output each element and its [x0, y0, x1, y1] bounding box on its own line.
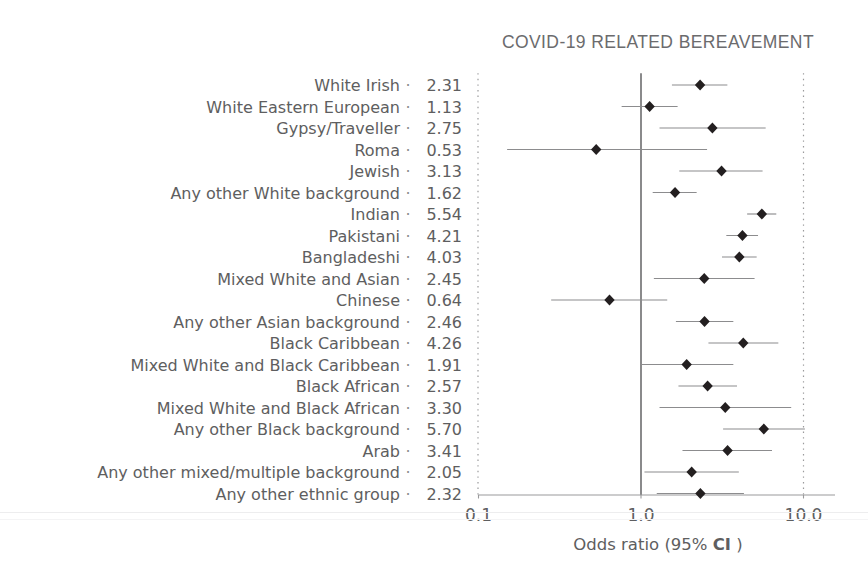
category-label: Arab	[363, 441, 400, 463]
forest-row: Gypsy/Traveller·2.75	[0, 118, 470, 140]
category-label: Jewish	[349, 161, 400, 183]
category-label: Gypsy/Traveller	[276, 118, 400, 140]
label-value-separator: ·	[400, 269, 416, 291]
x-axis-title-ci: CI	[713, 535, 731, 554]
category-label: Any other White background	[170, 183, 400, 205]
point-estimate-marker	[722, 445, 732, 456]
odds-ratio-value: 3.41	[416, 441, 462, 463]
point-estimate-marker	[591, 144, 601, 155]
category-label: Mixed White and Black African	[157, 398, 400, 420]
odds-ratio-value: 2.31	[416, 75, 462, 97]
point-estimate-marker	[759, 423, 769, 434]
category-label: Chinese	[336, 290, 400, 312]
odds-ratio-value: 1.62	[416, 183, 462, 205]
odds-ratio-value: 2.75	[416, 118, 462, 140]
odds-ratio-value: 2.05	[416, 462, 462, 484]
odds-ratio-value: 4.21	[416, 226, 462, 248]
point-estimate-marker	[681, 359, 691, 370]
category-label: Mixed White and Asian	[217, 269, 400, 291]
point-estimate-marker	[686, 466, 696, 477]
forest-row: Pakistani·4.21	[0, 226, 470, 248]
point-estimate-marker	[695, 79, 705, 90]
point-estimate-marker	[757, 208, 767, 219]
category-label: Bangladeshi	[302, 247, 400, 269]
odds-ratio-value: 5.70	[416, 419, 462, 441]
point-estimate-marker	[702, 380, 712, 391]
forest-plot-figure: COVID-19 RELATED BEREAVEMENT White Irish…	[0, 0, 868, 571]
forest-row: Any other Black background·5.70	[0, 419, 470, 441]
category-label-list: White Irish·2.31White Eastern European·1…	[0, 75, 470, 505]
odds-ratio-value: 1.13	[416, 97, 462, 119]
label-value-separator: ·	[400, 247, 416, 269]
label-value-separator: ·	[400, 204, 416, 226]
label-value-separator: ·	[400, 312, 416, 334]
category-label: Any other ethnic group	[215, 484, 400, 506]
x-axis-title-prefix: Odds ratio (95%	[573, 535, 712, 554]
forest-row: Indian·5.54	[0, 204, 470, 226]
x-axis-title: Odds ratio (95% CI )	[478, 535, 838, 554]
x-axis-tick-label: 10.0	[785, 505, 823, 525]
category-label: Any other Asian background	[173, 312, 400, 334]
forest-row: Black African·2.57	[0, 376, 470, 398]
point-estimate-marker	[720, 402, 730, 413]
label-value-separator: ·	[400, 161, 416, 183]
odds-ratio-value: 0.53	[416, 140, 462, 162]
category-label: Black African	[296, 376, 400, 398]
point-estimate-marker	[737, 230, 747, 241]
category-label: Mixed White and Black Caribbean	[130, 355, 400, 377]
label-value-separator: ·	[400, 484, 416, 506]
forest-row: Bangladeshi·4.03	[0, 247, 470, 269]
point-estimate-marker	[738, 337, 748, 348]
odds-ratio-value: 0.64	[416, 290, 462, 312]
point-estimate-marker	[695, 488, 705, 499]
point-estimate-marker	[644, 101, 654, 112]
category-label: Pakistani	[329, 226, 400, 248]
label-value-separator: ·	[400, 118, 416, 140]
forest-row: Mixed White and Asian·2.45	[0, 269, 470, 291]
label-value-separator: ·	[400, 355, 416, 377]
odds-ratio-value: 4.03	[416, 247, 462, 269]
point-estimate-marker	[699, 316, 709, 327]
label-value-separator: ·	[400, 333, 416, 355]
category-label: Any other mixed/multiple background	[97, 462, 400, 484]
label-value-separator: ·	[400, 462, 416, 484]
category-label: Indian	[351, 204, 400, 226]
x-axis-tick-label: 1.0	[627, 505, 654, 525]
page-rule-top	[0, 512, 868, 513]
point-estimate-marker	[734, 251, 744, 262]
forest-row: White Irish·2.31	[0, 75, 470, 97]
category-label: White Irish	[314, 75, 400, 97]
odds-ratio-value: 1.91	[416, 355, 462, 377]
label-value-separator: ·	[400, 97, 416, 119]
x-axis-title-suffix: )	[731, 535, 743, 554]
odds-ratio-value: 4.26	[416, 333, 462, 355]
label-value-separator: ·	[400, 441, 416, 463]
odds-ratio-value: 2.57	[416, 376, 462, 398]
point-estimate-marker	[699, 273, 709, 284]
forest-row: Black Caribbean·4.26	[0, 333, 470, 355]
label-value-separator: ·	[400, 290, 416, 312]
category-label: Roma	[354, 140, 400, 162]
odds-ratio-value: 2.32	[416, 484, 462, 506]
category-label: Black Caribbean	[270, 333, 400, 355]
forest-row: Any other Asian background·2.46	[0, 312, 470, 334]
label-value-separator: ·	[400, 140, 416, 162]
point-estimate-marker	[707, 122, 717, 133]
label-value-separator: ·	[400, 398, 416, 420]
category-label: White Eastern European	[206, 97, 400, 119]
category-label: Any other Black background	[174, 419, 400, 441]
forest-row: White Eastern European·1.13	[0, 97, 470, 119]
forest-row: Mixed White and Black African·3.30	[0, 398, 470, 420]
odds-ratio-value: 3.30	[416, 398, 462, 420]
chart-title: COVID-19 RELATED BEREAVEMENT	[478, 32, 838, 53]
forest-row: Any other mixed/multiple background·2.05	[0, 462, 470, 484]
label-value-separator: ·	[400, 183, 416, 205]
point-estimate-marker	[670, 187, 680, 198]
label-value-separator: ·	[400, 226, 416, 248]
forest-row: Chinese·0.64	[0, 290, 470, 312]
odds-ratio-value: 2.46	[416, 312, 462, 334]
label-value-separator: ·	[400, 376, 416, 398]
odds-ratio-value: 2.45	[416, 269, 462, 291]
odds-ratio-value: 3.13	[416, 161, 462, 183]
forest-row: Any other White background·1.62	[0, 183, 470, 205]
